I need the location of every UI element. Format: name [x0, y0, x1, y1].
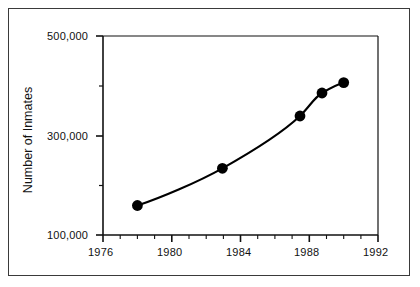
y-axis-title-container: Number of Inmates: [18, 60, 38, 220]
data-point: [132, 200, 143, 211]
data-point: [295, 111, 306, 122]
x-tick-label-1980: 1980: [157, 246, 182, 258]
chart-figure: 500,000 300,000 100,000 1976 1980 1984 1…: [0, 0, 420, 287]
x-tick-label-1984: 1984: [226, 246, 251, 258]
chart-plot-area: [0, 0, 420, 287]
y-axis-major-ticks: [96, 36, 103, 235]
y-tick-label-300000: 300,000: [47, 130, 88, 142]
data-point: [317, 88, 328, 99]
x-tick-label-1988: 1988: [294, 246, 319, 258]
data-point: [338, 77, 349, 88]
axis-spines: [103, 36, 378, 235]
x-axis-major-ticks: [103, 235, 378, 242]
x-tick-label-1992: 1992: [363, 246, 388, 258]
x-tick-label-1976: 1976: [88, 246, 113, 258]
y-axis-title: Number of Inmates: [21, 87, 35, 193]
data-point: [217, 163, 228, 174]
y-tick-label-100000: 100,000: [47, 229, 88, 241]
y-tick-label-500000: 500,000: [47, 30, 88, 42]
data-series-line: [137, 83, 343, 206]
